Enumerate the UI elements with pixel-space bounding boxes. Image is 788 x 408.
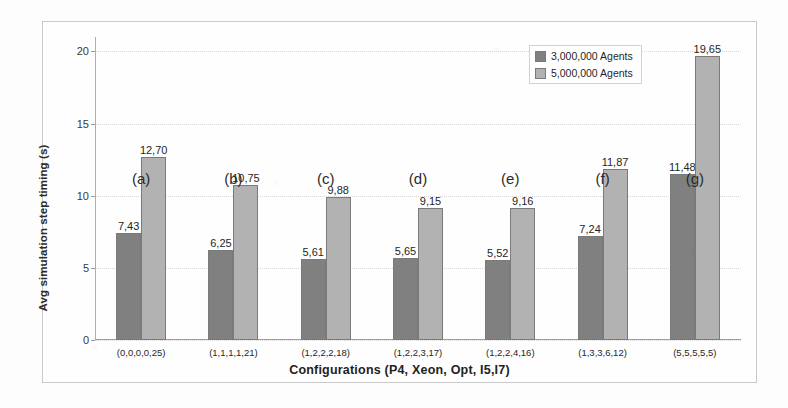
y-tick-label: 15 (77, 118, 89, 130)
y-tick-label: 20 (77, 45, 89, 57)
group-annotation: (g) (686, 170, 704, 187)
bar-value-label: 9,16 (512, 195, 533, 207)
group-annotation: (a) (132, 170, 150, 187)
bar-value-label: 19,65 (694, 43, 722, 55)
bar[interactable]: 5,65 (393, 258, 418, 340)
bar-value-label: 12,70 (140, 144, 168, 156)
bar-value-label: 7,24 (579, 223, 600, 235)
group-annotation: (f) (595, 170, 609, 187)
bar[interactable]: 5,61 (301, 259, 326, 340)
bar[interactable]: 7,24 (578, 236, 603, 340)
bar-group: 11,4819,65(g)(5,5,5,5,5) (649, 37, 741, 340)
group-annotation: (e) (501, 170, 519, 187)
x-tick-label: (1,1,1,1,21) (209, 347, 258, 358)
bar-group: 7,4312,70(a)(0,0,0,0,25) (95, 37, 187, 340)
y-tick-mark (91, 340, 95, 341)
legend-label: 5,000,000 Agents (551, 67, 633, 79)
group-annotation: (c) (317, 170, 335, 187)
bar-value-label: 9,15 (420, 195, 441, 207)
bar-group: 6,2510,75(b)(1,1,1,1,21) (187, 37, 279, 340)
plot-area: 05101520 7,4312,70(a)(0,0,0,0,25)6,2510,… (95, 37, 741, 340)
y-tick-label: 10 (77, 190, 89, 202)
bar-value-label: 6,25 (210, 237, 231, 249)
group-annotation: (d) (409, 170, 427, 187)
bar[interactable]: 19,65 (695, 56, 720, 340)
bar[interactable]: 9,16 (510, 208, 535, 340)
bar-group: 5,659,15(d)(1,2,2,3,17) (372, 37, 464, 340)
bar-group: 5,619,88(c)(1,2,2,2,18) (280, 37, 372, 340)
bar[interactable]: 11,87 (603, 169, 628, 340)
legend-item[interactable]: 3,000,000 Agents (535, 50, 633, 62)
x-tick-label: (5,5,5,5,5) (673, 347, 716, 358)
y-tick-label: 5 (83, 262, 89, 274)
x-axis-title: Configurations (P4, Xeon, Opt, I5,I7) (43, 363, 756, 377)
bar[interactable]: 9,15 (418, 208, 443, 340)
bar-value-label: 5,52 (487, 247, 508, 259)
chart-screenshot: Avg simulation step timing (s) 05101520 … (0, 0, 788, 408)
bar[interactable]: 6,25 (208, 250, 233, 340)
x-tick-label: (1,3,3,6,12) (578, 347, 627, 358)
legend-swatch-icon (535, 68, 546, 79)
bar[interactable]: 7,43 (116, 233, 141, 340)
bar-value-label: 7,43 (118, 220, 139, 232)
bar[interactable]: 10,75 (233, 185, 258, 340)
bar-value-label: 11,87 (602, 156, 629, 168)
legend-item[interactable]: 5,000,000 Agents (535, 67, 633, 79)
legend-swatch-icon (535, 51, 546, 62)
bar-value-label: 5,61 (302, 246, 323, 258)
x-tick-label: (1,2,2,3,17) (394, 347, 443, 358)
group-annotation: (b) (224, 170, 242, 187)
bar[interactable]: 5,52 (485, 260, 510, 340)
x-tick-label: (1,2,2,4,16) (486, 347, 535, 358)
bar[interactable]: 9,88 (326, 197, 351, 340)
gridline (95, 340, 741, 341)
chart-frame: Avg simulation step timing (s) 05101520 … (42, 21, 757, 383)
bar[interactable]: 11,48 (670, 174, 695, 340)
x-tick-label: (0,0,0,0,25) (117, 347, 166, 358)
legend-label: 3,000,000 Agents (551, 50, 633, 62)
y-axis-title: Avg simulation step timing (s) (37, 118, 49, 338)
bar-value-label: 5,65 (395, 245, 416, 257)
y-tick-label: 0 (83, 334, 89, 346)
chart-legend: 3,000,000 Agents5,000,000 Agents (529, 45, 642, 84)
x-tick-label: (1,2,2,2,18) (301, 347, 350, 358)
